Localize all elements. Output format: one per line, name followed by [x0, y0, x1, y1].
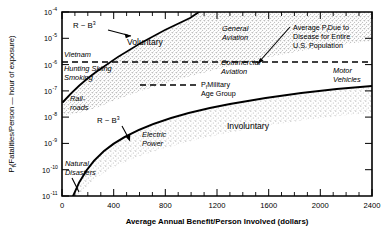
railroads-label-2: roads: [70, 103, 89, 112]
y-tick-labels: 10 -4 10 -5 10 -6 10 -7 10 -8 10 -9 10 -…: [42, 6, 58, 201]
disease-callout-post: Due to: [328, 23, 349, 32]
commercial-aviation-label-2: Aviation: [220, 67, 247, 76]
ytick-exp-7: -10: [51, 164, 59, 170]
xtick-label-800: 800: [159, 201, 172, 210]
xtick-label-1200: 1200: [209, 201, 226, 210]
ytick-label-1: 10: [44, 8, 52, 17]
electric-power-label-2: Power: [142, 139, 163, 148]
disease-callout-line3: U.S. Population: [293, 41, 343, 50]
chart-svg: 10 -4 10 -5 10 -6 10 -7 10 -8 10 -9 10 -…: [0, 0, 388, 243]
ytick-exp-2: -5: [53, 32, 58, 38]
ytick-label-4: 10: [44, 87, 52, 96]
commercial-aviation-label-1: Commercial: [221, 58, 261, 67]
vietnam-label: Vietnam: [64, 50, 91, 59]
ytick-label-8: 10: [42, 192, 50, 201]
rb-upper-sup: 3: [93, 20, 96, 26]
ytick-exp-6: -9: [53, 137, 58, 143]
rb-relation-lower: R ~ B3: [97, 115, 120, 125]
x-axis-title: Average Annual Benefit/Person Involved (…: [126, 217, 309, 226]
rb-lower-sup: 3: [117, 115, 120, 121]
military-callout-post: Military: [207, 80, 230, 89]
military-callout-line2: Age Group: [201, 89, 236, 98]
natural-disasters-label-1: Natural: [65, 159, 89, 168]
ytick-label-2: 10: [44, 34, 52, 43]
ytick-label-6: 10: [44, 139, 52, 148]
svg-text:Pf(Fatalities/Person — hour of: Pf(Fatalities/Person — hour of exposure): [7, 35, 17, 172]
xtick-label-0: 0: [60, 201, 64, 210]
ytick-exp-1: -4: [53, 6, 58, 12]
ytick-label-5: 10: [44, 113, 52, 122]
motor-vehicles-label-1: Motor: [333, 66, 352, 75]
x-tick-labels: 0 400 800 1200 1600 2000 2400: [60, 201, 381, 210]
risk-benefit-chart: 10 -4 10 -5 10 -6 10 -7 10 -8 10 -9 10 -…: [0, 0, 388, 243]
ytick-exp-5: -8: [53, 111, 58, 117]
ytick-exp-3: -6: [53, 59, 58, 65]
xtick-label-400: 400: [107, 201, 120, 210]
disease-callout-line2: Disease for Entire: [293, 32, 350, 41]
xtick-label-2000: 2000: [312, 201, 329, 210]
motor-vehicles-label-2: Vehicles: [333, 75, 361, 84]
natural-disasters-label-2: Disasters: [65, 168, 96, 177]
ytick-label-7: 10: [42, 166, 50, 175]
xtick-label-2400: 2400: [364, 201, 381, 210]
y-axis-title: Pf(Fatalities/Person — hour of exposure): [7, 35, 17, 172]
ytick-label-3: 10: [44, 61, 52, 70]
general-aviation-label-1: General: [222, 24, 249, 33]
involuntary-label: Involuntary: [227, 121, 270, 131]
ytick-exp-8: -11: [51, 190, 58, 196]
rb-relation-upper: R ~ B3: [73, 20, 96, 30]
voluntary-label: Voluntary: [127, 37, 164, 47]
y-axis-title-post: (Fatalities/Person — hour of exposure): [7, 35, 16, 166]
general-aviation-label-2: Aviation: [221, 33, 248, 42]
xtick-label-1600: 1600: [260, 201, 277, 210]
rb-lower-text: R ~ B: [97, 116, 117, 125]
railroads-label-1: Rail-: [70, 94, 86, 103]
disease-callout-pre: Average P: [293, 23, 327, 32]
rb-upper-text: R ~ B: [73, 21, 93, 30]
smoking-label: Smoking: [64, 73, 94, 82]
hunting-skiing-label: Hunting Skiing: [64, 64, 113, 73]
ytick-exp-4: -7: [53, 85, 58, 91]
electric-power-label-1: Electric: [142, 130, 167, 139]
